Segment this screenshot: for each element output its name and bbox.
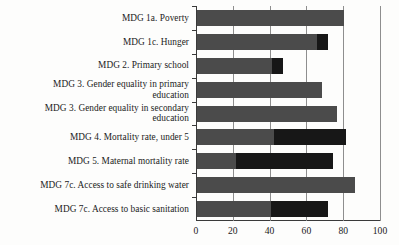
- y-axis-tick: [192, 6, 197, 7]
- category-label: MDG 3. Gender equality in primaryeducati…: [0, 78, 189, 102]
- category-label: MDG 5. Maternal mortality rate: [0, 149, 189, 173]
- bar-segment-base: [197, 129, 274, 145]
- category-label: MDG 1a. Poverty: [0, 6, 189, 30]
- bar-segment-base: [197, 201, 271, 217]
- y-axis-tick: [192, 125, 197, 126]
- plot-area: [196, 6, 380, 221]
- category-label: MDG 3. Gender equality in secondaryeduca…: [0, 102, 189, 126]
- category-label-line: MDG 1c. Hunger: [0, 37, 189, 48]
- y-axis-tick: [192, 102, 197, 103]
- category-label: MDG 7c. Access to safe drinking water: [0, 173, 189, 197]
- category-label-line: MDG 5. Maternal mortality rate: [0, 156, 189, 167]
- bar-row: [197, 129, 381, 145]
- bar-row: [197, 34, 381, 50]
- bar-chart: MDG 1a. PovertyMDG 1c. HungerMDG 2. Prim…: [0, 0, 399, 245]
- category-label: MDG 4. Mortality rate, under 5: [0, 125, 189, 149]
- category-label-line: MDG 2. Primary school: [0, 60, 189, 71]
- bar-segment-base: [197, 10, 344, 26]
- y-axis-tick: [192, 197, 197, 198]
- category-label: MDG 1c. Hunger: [0, 30, 189, 54]
- bar-row: [197, 177, 381, 193]
- x-axis-line: [196, 220, 380, 221]
- category-label-line: MDG 7c. Access to basic sanitation: [0, 204, 189, 215]
- bar-segment-highlight: [274, 129, 346, 145]
- x-axis-tick-label: 100: [373, 225, 387, 237]
- y-axis-tick: [192, 30, 197, 31]
- category-label-line: MDG 3. Gender equality in primary: [0, 79, 189, 90]
- bar-segment-base: [197, 34, 317, 50]
- bar-segment-highlight: [271, 201, 328, 217]
- category-label-line: MDG 7c. Access to safe drinking water: [0, 180, 189, 191]
- y-axis-tick: [192, 173, 197, 174]
- category-label-line: education: [0, 113, 189, 124]
- bar-segment-base: [197, 82, 322, 98]
- x-axis-tick-label: 0: [194, 225, 199, 237]
- bar-segment-highlight: [272, 58, 283, 74]
- x-axis-tick-label: 40: [265, 225, 275, 237]
- bar-row: [197, 10, 381, 26]
- bar-segment-highlight: [317, 34, 328, 50]
- y-axis-tick: [192, 54, 197, 55]
- bar-row: [197, 106, 381, 122]
- category-label: MDG 2. Primary school: [0, 54, 189, 78]
- category-label-line: MDG 1a. Poverty: [0, 13, 189, 24]
- category-label-line: MDG 3. Gender equality in secondary: [0, 103, 189, 114]
- category-label-column: MDG 1a. PovertyMDG 1c. HungerMDG 2. Prim…: [0, 0, 193, 220]
- bar-segment-base: [197, 58, 272, 74]
- bar-row: [197, 201, 381, 217]
- bar-row: [197, 153, 381, 169]
- x-axis-tick-labels: 020406080100: [196, 225, 380, 241]
- bar-row: [197, 58, 381, 74]
- bar-segment-highlight: [236, 153, 334, 169]
- bar-segment-base: [197, 106, 337, 122]
- bar-row: [197, 82, 381, 98]
- bar-segment-base: [197, 153, 236, 169]
- category-label: MDG 7c. Access to basic sanitation: [0, 197, 189, 221]
- x-axis-tick-label: 60: [302, 225, 312, 237]
- x-axis-tick-label: 20: [228, 225, 238, 237]
- y-axis-tick: [192, 149, 197, 150]
- y-axis-tick: [192, 78, 197, 79]
- category-label-line: education: [0, 90, 189, 101]
- x-axis-tick-label: 80: [338, 225, 348, 237]
- category-label-line: MDG 4. Mortality rate, under 5: [0, 132, 189, 143]
- bar-segment-base: [197, 177, 355, 193]
